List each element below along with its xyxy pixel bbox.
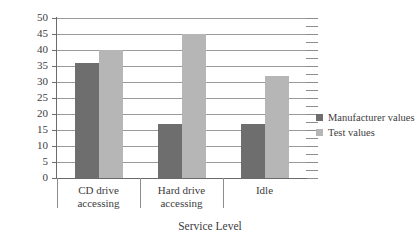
y-axis-tick-value: 30 [22,76,48,87]
x-axis-title: Service Level [0,220,414,232]
y-axis-tick-value: 20 [22,108,48,119]
y-axis-tick-label: 20 [0,108,48,119]
bar-test-0 [99,50,123,178]
category-label-line: CD drive [57,184,140,197]
right-tick [306,162,318,163]
y-axis-tick-value: 35 [22,60,48,71]
category-label-1: Hard driveaccessing [140,184,223,210]
bar-test-1 [182,34,206,178]
category-label-line: Idle [223,184,306,197]
right-tick [306,106,318,107]
category-label-line: accessing [140,197,223,210]
y-axis-tick-value: 10 [22,140,48,151]
bar-test-2 [265,76,289,178]
category-label-2: Idle [223,184,306,197]
y-axis-tick-label: 30 [0,76,48,87]
legend-swatch-manufacturer [316,114,323,121]
legend-item-1: Test values [316,125,415,140]
y-axis-tick-label: 10 [0,140,48,151]
y-axis-tick-label: 35 [0,60,48,71]
y-axis-tick-label: 40 [0,44,48,55]
right-tick [306,90,318,91]
category-label-0: CD driveaccessing [57,184,140,210]
y-axis-tick-value: 15 [22,124,48,135]
right-tick [306,146,318,147]
right-tick [306,82,318,83]
right-tick [306,42,318,43]
bar-manufacturer-1 [158,124,182,178]
right-tick [306,18,318,19]
bar-manufacturer-2 [241,124,265,178]
y-axis-tick-value: 25 [22,92,48,103]
y-axis-tick-value: 5 [22,156,48,167]
legend-label: Manufacturer values [328,112,415,123]
y-axis-tick-label: 5 [0,156,48,167]
plot-area-bars [57,18,306,178]
y-axis-tick-value: 50 [22,12,48,23]
right-tick [306,98,318,99]
legend-item-0: Manufacturer values [316,110,415,125]
y-axis-tick-label: 50 [0,12,48,23]
right-tick [306,66,318,67]
y-axis-tick-label: 15 [0,124,48,135]
right-tick [306,50,318,51]
right-tick [306,74,318,75]
right-tick [306,26,318,27]
chart-legend: Manufacturer valuesTest values [316,110,415,140]
y-axis-tick-label: 0 [0,172,48,183]
legend-swatch-test [316,129,323,136]
category-label-line: accessing [57,197,140,210]
y-axis-tick-label: 25 [0,92,48,103]
y-axis-tick-value: 0 [22,172,48,183]
right-tick [306,178,318,179]
right-tick [306,170,318,171]
y-axis-tick-value: 45 [22,28,48,39]
right-tick [306,58,318,59]
y-axis-tick-label: 45 [0,28,48,39]
right-tick [306,34,318,35]
y-axis-tick-value: 40 [22,44,48,55]
x-axis-line [56,178,307,179]
right-tick [306,154,318,155]
legend-label: Test values [328,127,375,138]
bar-manufacturer-0 [75,63,99,178]
category-label-line: Hard drive [140,184,223,197]
x-axis-title-text: Service Level [178,220,242,232]
